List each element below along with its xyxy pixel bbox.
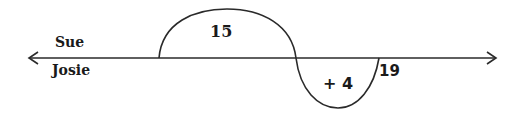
- josie-label: Josie: [50, 62, 90, 78]
- number-line-diagram: Sue Josie 15 + 4 19: [0, 0, 523, 117]
- sue-label: Sue: [55, 34, 84, 50]
- jump-label-15: 15: [210, 22, 232, 41]
- jump-label-plus-4: + 4: [323, 74, 353, 93]
- endpoint-label-19: 19: [379, 62, 400, 80]
